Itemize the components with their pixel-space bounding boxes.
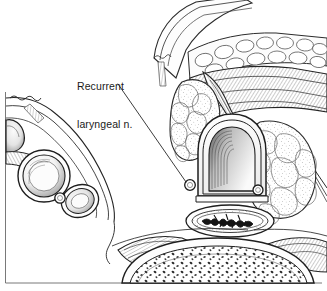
label-line-1: Recurrent (77, 80, 132, 93)
label-recurrent-laryngeal-nerve: Recurrent laryngeal n. (77, 55, 132, 155)
anatomy-illustration-svg (0, 0, 327, 291)
nerve-circle-right (253, 185, 263, 195)
label-line-2: laryngeal n. (77, 118, 132, 131)
anatomy-figure: Recurrent laryngeal n. (0, 0, 327, 291)
nerve-circle-left (185, 180, 196, 191)
esophagus (186, 205, 274, 237)
vagus-nerve (55, 193, 65, 203)
